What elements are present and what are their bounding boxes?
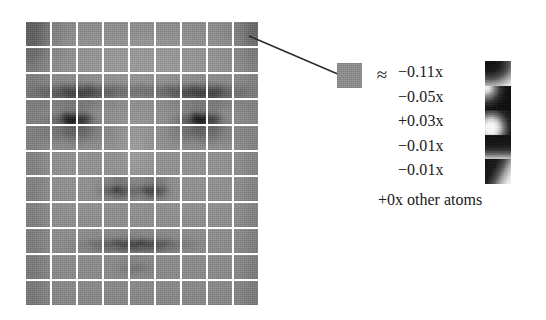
patch-grain — [208, 48, 232, 72]
patch-grain — [104, 203, 128, 227]
face-patch-grid — [26, 22, 258, 305]
patch-grain — [52, 281, 76, 305]
face-patch — [234, 281, 258, 305]
other-atoms-label: +0x other atoms — [378, 190, 482, 210]
face-patch — [52, 152, 76, 176]
patch-grain — [182, 22, 206, 46]
face-patch — [130, 255, 154, 279]
face-patch — [104, 152, 128, 176]
patch-grain — [208, 126, 232, 150]
patch-grain — [156, 22, 180, 46]
patch-grain — [104, 100, 128, 124]
patch-grain — [156, 203, 180, 227]
patch-grain — [485, 159, 511, 184]
leader-line — [245, 28, 350, 83]
face-patch — [130, 203, 154, 227]
face-patch — [26, 74, 50, 98]
patch-grain — [130, 74, 154, 98]
patch-grain — [485, 61, 511, 86]
atom-thumbnail — [485, 135, 511, 160]
face-patch — [26, 22, 50, 46]
patch-grain — [104, 229, 128, 253]
face-patch — [234, 22, 258, 46]
face-patch — [208, 74, 232, 98]
patch-grain — [104, 126, 128, 150]
patch-grain — [234, 203, 258, 227]
face-patch — [208, 255, 232, 279]
face-patch — [130, 281, 154, 305]
patch-grain — [156, 100, 180, 124]
face-patch — [156, 126, 180, 150]
face-patch — [104, 229, 128, 253]
face-patch — [130, 22, 154, 46]
atom-thumbnail-strip — [485, 61, 511, 184]
atom-thumbnail — [485, 61, 511, 86]
patch-grain — [130, 177, 154, 201]
patch-grain — [104, 22, 128, 46]
face-patch — [234, 255, 258, 279]
patch-grain — [78, 255, 102, 279]
face-patch — [26, 152, 50, 176]
face-patch — [130, 152, 154, 176]
face-patch — [234, 74, 258, 98]
coefficient-label: −0.01x — [398, 158, 484, 183]
patch-grain — [208, 229, 232, 253]
face-patch — [104, 22, 128, 46]
patch-grain — [234, 126, 258, 150]
patch-grain — [234, 48, 258, 72]
patch-grain — [208, 152, 232, 176]
patch-grain — [104, 281, 128, 305]
face-patch — [156, 48, 180, 72]
face-patch — [208, 177, 232, 201]
face-patch — [78, 74, 102, 98]
patch-grain — [208, 255, 232, 279]
face-patch — [208, 100, 232, 124]
face-patch — [130, 100, 154, 124]
patch-grain — [78, 126, 102, 150]
face-patch — [78, 203, 102, 227]
face-patch — [52, 100, 76, 124]
patch-grain — [156, 281, 180, 305]
patch-grain — [130, 281, 154, 305]
patch-grain — [182, 48, 206, 72]
face-patch — [234, 100, 258, 124]
face-patch — [182, 126, 206, 150]
patch-grain — [234, 229, 258, 253]
coefficient-label: +0.03x — [398, 109, 484, 134]
patch-grain — [234, 152, 258, 176]
face-patch — [26, 126, 50, 150]
patch-grain — [156, 48, 180, 72]
patch-grain — [26, 126, 50, 150]
patch-grain — [156, 177, 180, 201]
patch-grain — [156, 255, 180, 279]
face-patch — [182, 255, 206, 279]
face-patch — [26, 203, 50, 227]
face-patch — [52, 229, 76, 253]
patch-grain — [26, 100, 50, 124]
face-patch — [156, 255, 180, 279]
face-patch — [156, 74, 180, 98]
coefficient-list: −0.11x −0.05x +0.03x −0.01x −0.01x — [398, 60, 484, 183]
face-patch — [208, 229, 232, 253]
patch-grain — [26, 281, 50, 305]
coefficient-label: −0.11x — [398, 60, 484, 85]
face-patch — [156, 203, 180, 227]
face-patch — [78, 48, 102, 72]
face-patch — [156, 177, 180, 201]
face-patch — [182, 22, 206, 46]
patch-grain — [485, 110, 511, 135]
patch-grain — [182, 177, 206, 201]
patch-grain — [26, 255, 50, 279]
approximately-equal-icon: ≈ — [371, 62, 393, 87]
patch-grain — [26, 22, 50, 46]
face-patch — [182, 177, 206, 201]
patch-grain — [234, 255, 258, 279]
face-patch — [26, 48, 50, 72]
face-patch — [104, 177, 128, 201]
patch-grain — [156, 152, 180, 176]
face-patch — [78, 229, 102, 253]
patch-grain — [182, 100, 206, 124]
face-patch — [182, 281, 206, 305]
face-patch — [234, 48, 258, 72]
face-patch — [104, 255, 128, 279]
